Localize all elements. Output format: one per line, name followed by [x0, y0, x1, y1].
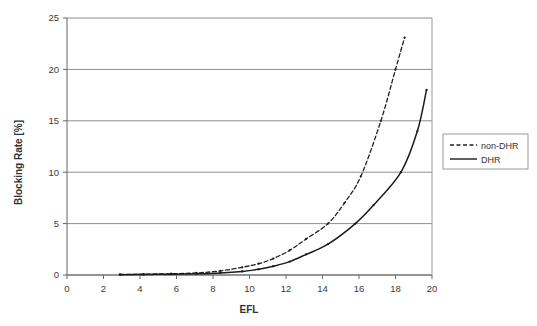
y-tick-label: 0	[54, 269, 59, 280]
data-point-marker	[380, 120, 382, 122]
x-tick-label: 0	[64, 283, 69, 294]
y-axis-ticks: 0510152025	[48, 12, 67, 280]
legend-label-non-dhr: non-DHR	[481, 141, 519, 151]
y-tick-label: 20	[48, 64, 59, 75]
data-point-marker	[241, 270, 243, 272]
data-point-marker	[372, 204, 374, 206]
data-point-marker	[119, 274, 121, 276]
x-axis-title: EFL	[240, 304, 259, 315]
data-point-marker	[327, 243, 329, 245]
data-point-marker	[354, 222, 356, 224]
x-tick-label: 4	[137, 283, 142, 294]
data-point-marker	[170, 273, 172, 275]
data-point-marker	[403, 36, 405, 38]
data-point-marker	[289, 260, 291, 262]
x-tick-label: 10	[244, 283, 255, 294]
x-tick-label: 8	[210, 283, 215, 294]
data-point-marker	[195, 273, 197, 275]
data-point-marker	[400, 171, 402, 173]
data-point-marker	[272, 265, 274, 267]
y-tick-label: 25	[48, 12, 59, 23]
y-tick-label: 15	[48, 115, 59, 126]
y-tick-label: 5	[54, 218, 59, 229]
x-axis-ticks: 02468101214161820	[64, 275, 437, 294]
line-chart: 0510152025 02468101214161820 Blocking Ra…	[0, 0, 537, 326]
y-axis-title: Blocking Rate [%]	[13, 120, 24, 205]
plot-area-background	[67, 18, 432, 275]
x-tick-label: 2	[101, 283, 106, 294]
data-point-marker	[219, 272, 221, 274]
x-tick-label: 20	[427, 283, 438, 294]
data-point-marker	[425, 89, 427, 91]
data-point-marker	[305, 238, 307, 240]
data-point-marker	[343, 202, 345, 204]
data-point-marker	[219, 270, 221, 272]
data-point-marker	[241, 266, 243, 268]
chart-container: 0510152025 02468101214161820 Blocking Ra…	[0, 0, 537, 326]
legend-label-dhr: DHR	[481, 155, 501, 165]
data-point-marker	[289, 249, 291, 251]
y-tick-label: 10	[48, 167, 59, 178]
data-point-marker	[272, 257, 274, 259]
x-tick-label: 12	[281, 283, 292, 294]
data-point-marker	[327, 222, 329, 224]
x-tick-label: 14	[317, 283, 328, 294]
data-point-marker	[305, 253, 307, 255]
data-point-marker	[257, 268, 259, 270]
x-tick-label: 6	[174, 283, 179, 294]
data-point-marker	[143, 273, 145, 275]
x-tick-label: 16	[354, 283, 365, 294]
data-point-marker	[416, 130, 418, 132]
x-tick-label: 18	[390, 283, 401, 294]
chart-legend: non-DHR DHR	[443, 134, 528, 169]
data-point-marker	[360, 175, 362, 177]
data-point-marker	[257, 263, 259, 265]
data-point-marker	[394, 68, 396, 70]
